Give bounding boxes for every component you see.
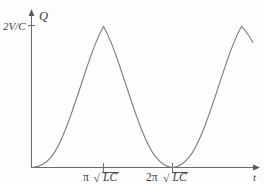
radical-symbol: √: [94, 172, 101, 184]
radical-symbol-2: √: [163, 172, 170, 184]
y-level-label: 2V/C: [3, 20, 26, 32]
chart-svg: 2V/C Q t π √ LC 2π √ LC: [0, 0, 265, 186]
x-tick-label-2pi-sqrt-lc: 2π √ LC: [146, 171, 188, 184]
y-axis-arrow-icon: [29, 9, 35, 16]
chart-figure: 2V/C Q t π √ LC 2π √ LC: [0, 0, 265, 186]
x-axis-label: t: [253, 171, 257, 183]
x-tick-label-pi-sqrt-lc: π √ LC: [83, 171, 119, 184]
pi-symbol: π: [83, 171, 89, 183]
x-axis-arrow-icon: [253, 165, 260, 171]
y-axis-label: Q: [39, 9, 48, 23]
charge-curve: [32, 26, 254, 167]
two-pi-symbol: 2π: [146, 171, 158, 183]
